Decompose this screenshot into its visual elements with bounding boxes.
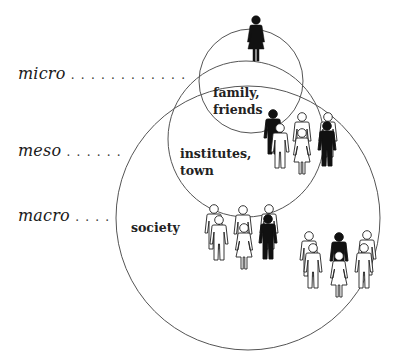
micro-circle-label: family, friends [213,84,263,118]
leader-dots: . . . . . . [67,145,122,159]
macro-circle-label: society [131,219,180,236]
meso-circle-label: institutes, town [180,145,251,179]
level-label-meso: meso . . . . . . [18,141,122,160]
level-label-macro: macro . . . . [18,206,110,225]
person-woman-icon [248,16,265,61]
level-label-micro: micro . . . . . . . . . . . . [18,64,186,83]
diagram-graphic [0,0,400,363]
level-name: meso [18,141,61,160]
leader-dots: . . . . [75,210,110,224]
level-name: micro [18,64,66,83]
diagram-canvas: micro . . . . . . . . . . . . meso . . .… [0,0,400,363]
level-name: macro [18,206,70,225]
leader-dots: . . . . . . . . . . . . [71,68,186,82]
